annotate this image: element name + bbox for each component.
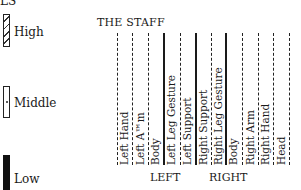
legend-middle-label: Middle [14, 97, 56, 109]
staff-title: THE STAFF [97, 16, 165, 29]
middle-dot-icon [6, 101, 8, 103]
staff-line-right-arm [242, 33, 243, 165]
legend-middle-swatch [3, 86, 10, 118]
staff-line-outer-right [289, 33, 290, 165]
staff-line-left-arm [132, 33, 133, 165]
column-label-body-right: Body [228, 138, 239, 165]
legend-low-swatch [3, 155, 10, 190]
column-label-head: Head [276, 137, 287, 165]
column-label-right-arm: Right Arm [245, 110, 256, 165]
side-label-left: LEFT [150, 171, 180, 184]
staff-line-head [273, 33, 274, 165]
column-label-right-hand: Right Hand [260, 104, 271, 165]
side-label-right: RIGHT [209, 171, 247, 184]
column-label-left-support: Left Support [182, 97, 193, 165]
legend-high-swatch [3, 14, 10, 47]
legend-low-label: Low [14, 173, 39, 185]
column-label-right-support: Right Support [198, 90, 209, 165]
column-label-body-left: Body [150, 138, 161, 165]
column-label-left-arm: Left A™m [135, 112, 146, 165]
column-label-left-leg-gesture: Left Leg Gesture [166, 75, 177, 165]
legend-high-label: High [14, 26, 44, 38]
column-label-right-leg-gesture: Right Leg Gesture [213, 67, 224, 165]
legend-heading-fragment: LS [0, 0, 16, 8]
column-label-left-hand: Left Hand [119, 111, 130, 165]
